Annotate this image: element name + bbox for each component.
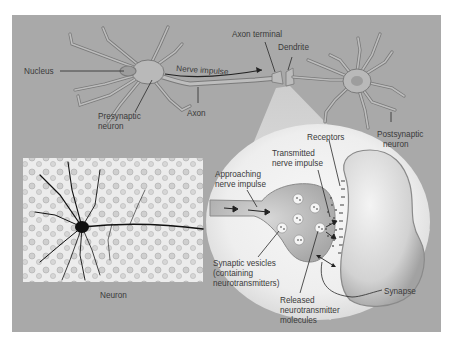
label-approaching-1: Approaching (215, 170, 261, 179)
label-released-1: Released (280, 296, 315, 305)
label-approaching-2: nerve impulse (215, 180, 266, 189)
neuron-micrograph (23, 158, 203, 282)
postsynaptic-nucleus (351, 76, 363, 86)
label-transmitted-2: nerve impulse (272, 159, 323, 168)
label-micrograph-caption: Neuron (100, 291, 127, 300)
label-synapse: Synapse (384, 287, 416, 296)
label-postsynaptic-2: neuron (383, 140, 409, 149)
label-vesicles-3: neurotransmitters) (213, 279, 280, 288)
label-dendrite: Dendrite (278, 43, 309, 52)
label-released-2: neurotransmitter (280, 306, 340, 315)
label-vesicles-1: Synaptic vesicles (213, 259, 276, 268)
label-nucleus: Nucleus (24, 67, 54, 76)
label-presynaptic-2: neuron (98, 122, 124, 131)
label-presynaptic-1: Presynaptic (98, 112, 141, 121)
neuron-synapse-diagram: Nucleus Presynaptic neuron Nerve impulse… (0, 0, 457, 347)
label-axon: Axon (187, 109, 206, 118)
label-vesicles-2: (containing (213, 269, 254, 278)
presynaptic-soma (132, 60, 164, 84)
label-axon-terminal: Axon terminal (232, 30, 282, 39)
label-postsynaptic-1: Postsynaptic (377, 130, 423, 139)
label-receptors: Receptors (307, 133, 344, 142)
label-transmitted-1: Transmitted (272, 149, 315, 158)
label-released-3: molecules (280, 316, 317, 325)
